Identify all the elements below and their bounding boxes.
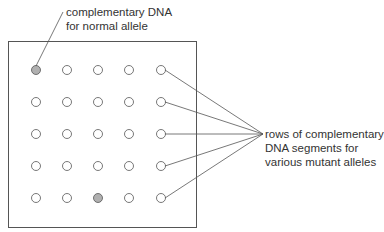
empty-dot bbox=[32, 130, 41, 139]
empty-dot bbox=[94, 66, 103, 75]
empty-dot bbox=[63, 162, 72, 171]
empty-dot bbox=[32, 98, 41, 107]
empty-dot bbox=[157, 194, 166, 203]
empty-dot bbox=[63, 66, 72, 75]
empty-dot bbox=[94, 130, 103, 139]
empty-dot bbox=[157, 162, 166, 171]
empty-dot bbox=[125, 162, 134, 171]
dot-grid bbox=[32, 66, 166, 203]
empty-dot bbox=[125, 130, 134, 139]
filled-dot bbox=[94, 194, 103, 203]
empty-dot bbox=[125, 98, 134, 107]
empty-dot bbox=[94, 98, 103, 107]
pointer-line bbox=[165, 134, 263, 166]
empty-dot bbox=[125, 66, 134, 75]
pointer-line bbox=[165, 102, 263, 134]
empty-dot bbox=[157, 98, 166, 107]
filled-dot bbox=[32, 66, 41, 75]
empty-dot bbox=[63, 194, 72, 203]
empty-dot bbox=[32, 162, 41, 171]
empty-dot bbox=[63, 98, 72, 107]
pointer-line bbox=[165, 70, 263, 134]
pointer-line bbox=[165, 134, 263, 198]
normal-allele-pointer bbox=[36, 12, 63, 66]
empty-dot bbox=[125, 194, 134, 203]
mutant-allele-pointers bbox=[165, 70, 263, 198]
empty-dot bbox=[32, 194, 41, 203]
empty-dot bbox=[157, 66, 166, 75]
empty-dot bbox=[157, 130, 166, 139]
mutant-alleles-label: rows of complementary DNA segments for v… bbox=[265, 127, 384, 169]
empty-dot bbox=[94, 162, 103, 171]
normal-allele-label: complementary DNA for normal allele bbox=[66, 5, 172, 33]
empty-dot bbox=[63, 130, 72, 139]
